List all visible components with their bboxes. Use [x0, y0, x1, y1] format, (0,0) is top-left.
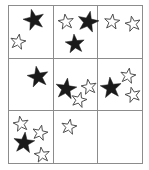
cell-r1-c2 [100, 68, 140, 102]
star-grid-figure [0, 0, 149, 170]
cell-r0-c2 [105, 14, 140, 31]
filled-star-icon-0-0-0 [23, 9, 43, 30]
outline-star-icon-0-2-0 [105, 14, 120, 29]
outline-star-icon-0-0-1 [11, 34, 26, 49]
outline-star-icon-1-1-1 [81, 79, 96, 94]
cell-r2-c0 [13, 116, 49, 162]
outline-star-icon-0-2-1 [125, 16, 140, 31]
filled-star-icon-0-1-2 [65, 34, 84, 53]
cell-r1-c1 [56, 78, 96, 107]
cell-r2-c1 [62, 119, 77, 134]
filled-star-icon-1-2-0 [100, 77, 121, 97]
cell-r0-c1 [58, 11, 99, 52]
cell-r1-c0 [27, 66, 48, 87]
outline-star-icon-2-0-3 [34, 147, 49, 162]
outline-star-icon-0-1-0 [58, 14, 73, 29]
outline-star-icon-1-1-2 [72, 92, 87, 107]
outline-star-icon-2-1-0 [62, 119, 77, 134]
outline-star-icon-1-2-2 [125, 87, 140, 102]
filled-star-icon-2-0-2 [14, 132, 35, 152]
cell-r0-c0 [11, 9, 43, 49]
filled-star-icon-0-1-1 [78, 11, 98, 32]
outline-star-icon-2-0-0 [13, 116, 28, 131]
stars-layer [11, 9, 140, 162]
star-grid-canvas [0, 0, 149, 170]
outline-star-icon-2-0-1 [33, 125, 48, 140]
filled-star-icon-1-0-0 [27, 66, 48, 87]
outline-star-icon-1-2-1 [121, 68, 136, 83]
